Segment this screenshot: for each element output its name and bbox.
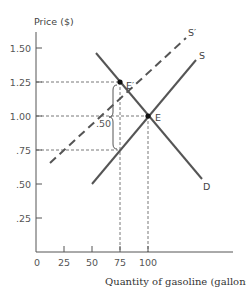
point-e-prime-marker: [117, 79, 122, 84]
guide-lines: [36, 82, 148, 252]
y-tick-label: 1.50: [10, 43, 31, 54]
y-axis-title: Price ($): [34, 16, 74, 27]
x-tick-label: 25: [58, 257, 70, 268]
y-tick-label: .25: [16, 213, 31, 224]
curve-label-d: D: [203, 181, 210, 192]
y-tick-label: 1.25: [10, 77, 31, 88]
y-tick-label: .50: [16, 179, 31, 190]
x-tick-label: 0: [34, 257, 40, 268]
x-tick-label: 50: [86, 257, 98, 268]
x-tick-label: 75: [114, 257, 126, 268]
x-axis-title: Quantity of gasoline (gallons): [105, 276, 246, 287]
curve-label-s: S: [199, 50, 205, 61]
point-e-marker: [145, 113, 150, 118]
point-label-e-prime: E′: [126, 80, 134, 91]
supply-demand-chart: 1.50 1.25 1.00 .75 .50 .25 0 25 50 75 10…: [0, 0, 246, 292]
supply-curve-s-prime: [50, 38, 186, 163]
y-ticks: [36, 48, 42, 218]
point-label-e: E: [155, 112, 161, 123]
brace-icon: [109, 85, 117, 149]
brace-label: .50: [96, 118, 111, 129]
y-tick-label: .75: [16, 145, 31, 156]
x-ticks: [64, 246, 148, 252]
x-tick-label: 100: [139, 257, 157, 268]
curve-label-s-prime: S′: [188, 27, 196, 38]
y-tick-label: 1.00: [10, 111, 31, 122]
